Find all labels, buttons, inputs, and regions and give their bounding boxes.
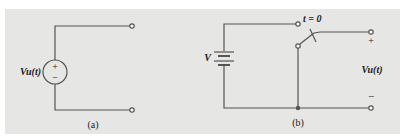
- switch-contact-top: [296, 22, 300, 26]
- circuit-figure: + − Vu(t) (a) V t = 0 + − Vu(t) (b): [0, 0, 406, 139]
- source-minus: −: [52, 72, 58, 83]
- junction-dot: [296, 106, 299, 109]
- caption-b: (b): [292, 117, 304, 129]
- terminal-b-bottom: [369, 106, 373, 110]
- circuit-b: [214, 22, 373, 110]
- output-plus: +: [368, 35, 374, 46]
- switch-blade: [300, 33, 314, 44]
- battery-label: V: [204, 52, 212, 63]
- terminal-a-top: [130, 24, 134, 28]
- switch-time-label: t = 0: [303, 13, 321, 24]
- source-label: Vu(t): [20, 66, 41, 78]
- terminal-b-top: [369, 30, 373, 34]
- output-label: Vu(t): [361, 64, 382, 76]
- caption-a: (a): [87, 119, 98, 131]
- output-minus: −: [368, 90, 374, 102]
- source-plus: +: [52, 61, 58, 72]
- terminal-a-bottom: [130, 108, 134, 112]
- switch-contact-bottom: [296, 44, 300, 48]
